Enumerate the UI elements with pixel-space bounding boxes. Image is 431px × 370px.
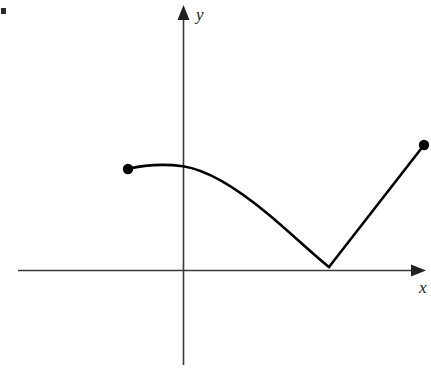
rising-line-segment — [329, 145, 424, 267]
concave-arc-segment — [128, 165, 329, 267]
scan-speck-icon — [1, 8, 6, 14]
x-axis-label: x — [418, 278, 427, 297]
x-axis-arrowhead-icon — [411, 265, 426, 277]
graph-figure: y x — [0, 0, 431, 370]
y-axis — [178, 5, 190, 365]
graph-canvas: y x — [0, 0, 431, 370]
y-axis-label: y — [194, 5, 204, 24]
y-axis-arrowhead-icon — [178, 5, 190, 20]
x-axis — [18, 265, 426, 277]
right-endpoint-marker — [419, 140, 429, 150]
left-endpoint-marker — [123, 164, 133, 174]
